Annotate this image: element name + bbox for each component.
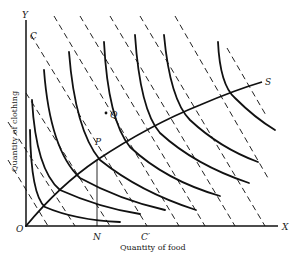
point-c-label: C [30, 31, 37, 41]
budget-lines [8, 16, 268, 226]
point-c-prime-label: C′ [141, 232, 150, 242]
x-axis-label: X [281, 222, 289, 232]
indifference-curve-4 [69, 52, 196, 210]
point-s-label: S [265, 77, 271, 87]
indifference-curve-diagram: Y X O C C′ N P Q S Quantity of food Quan… [0, 0, 298, 259]
indifference-curve-5 [104, 42, 220, 196]
budget-line-C [31, 35, 147, 226]
point-q-label: Q [110, 110, 118, 120]
budget-line-6 [80, 16, 205, 226]
indifference-curves [30, 35, 275, 222]
budget-line-8 [140, 16, 265, 226]
x-axis-title: Quantity of food [120, 243, 186, 252]
indifference-curve-7 [164, 35, 258, 162]
point-n-label: N [92, 232, 102, 242]
point-q-marker [105, 112, 108, 115]
point-p-label: P [94, 137, 102, 147]
y-axis-title: Quantity of clothing [10, 91, 19, 172]
origin-label: O [16, 224, 24, 234]
indifference-curve-2 [32, 100, 140, 214]
y-axis-label: Y [22, 10, 29, 20]
